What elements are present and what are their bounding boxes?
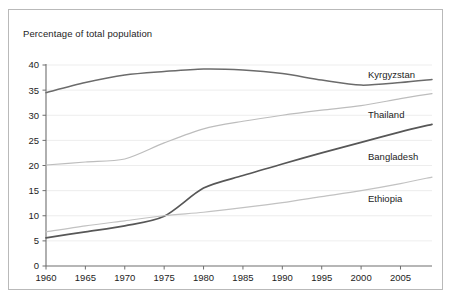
chart-figure: Percentage of total population 051015202… [8, 9, 443, 290]
y-tick-label: 25 [28, 135, 39, 146]
x-axis-tick-labels: 1960196519701975198019851990199520002005 [35, 272, 411, 283]
series-label-ethiopia: Ethiopia [368, 193, 403, 204]
y-axis-tick-labels: 0510152025303540 [28, 59, 39, 271]
x-tick-label: 1970 [114, 272, 135, 283]
series-line-ethiopia [46, 177, 432, 232]
y-tick-label: 15 [28, 185, 39, 196]
y-tick-label: 40 [28, 59, 39, 70]
y-tick-label: 30 [28, 110, 39, 121]
x-tick-label: 1985 [232, 272, 253, 283]
axes [43, 64, 433, 270]
x-tick-label: 1965 [75, 272, 96, 283]
x-tick-label: 1990 [272, 272, 293, 283]
y-tick-label: 10 [28, 210, 39, 221]
x-tick-label: 2000 [351, 272, 372, 283]
x-tick-label: 1975 [154, 272, 175, 283]
series-label-bangladesh: Bangladesh [368, 151, 418, 162]
series-label-kyrgyzstan: Kyrgyzstan [368, 69, 415, 80]
x-tick-label: 1960 [35, 272, 56, 283]
series-labels: KyrgyzstanThailandBangladeshEthiopia [368, 69, 418, 204]
x-tick-label: 1995 [311, 272, 332, 283]
y-tick-label: 20 [28, 160, 39, 171]
x-tick-label: 2005 [390, 272, 411, 283]
series-line-bangladesh [46, 124, 432, 238]
y-tick-label: 0 [34, 260, 39, 271]
x-tick-label: 1980 [193, 272, 214, 283]
line-chart-plot: 0510152025303540 19601965197019751980198… [9, 10, 444, 291]
y-tick-label: 5 [34, 235, 39, 246]
y-tick-label: 35 [28, 85, 39, 96]
series-label-thailand: Thailand [368, 109, 404, 120]
